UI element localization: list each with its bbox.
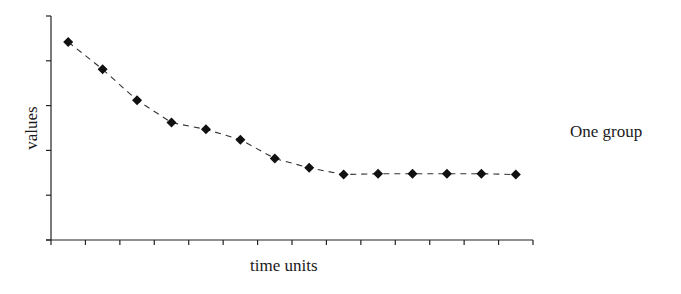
data-point-diamond bbox=[442, 169, 452, 179]
data-point-diamond bbox=[339, 170, 349, 180]
data-point-diamond bbox=[511, 170, 521, 180]
y-axis-title: values bbox=[22, 106, 42, 149]
legend-entry-one-group: One group bbox=[570, 122, 642, 142]
data-point-diamond bbox=[408, 169, 418, 179]
data-point-diamond bbox=[167, 118, 177, 128]
series-line-one-group bbox=[68, 42, 516, 175]
data-point-diamond bbox=[476, 169, 486, 179]
data-point-diamond bbox=[304, 163, 314, 173]
data-point-diamond bbox=[132, 95, 142, 105]
chart-axes bbox=[46, 16, 533, 245]
series-markers bbox=[63, 37, 521, 180]
line-chart bbox=[0, 0, 681, 294]
data-point-diamond bbox=[373, 169, 383, 179]
data-point-diamond bbox=[235, 135, 245, 145]
data-point-diamond bbox=[63, 37, 73, 47]
x-axis-title: time units bbox=[250, 256, 318, 276]
data-point-diamond bbox=[270, 153, 280, 163]
data-point-diamond bbox=[201, 124, 211, 134]
